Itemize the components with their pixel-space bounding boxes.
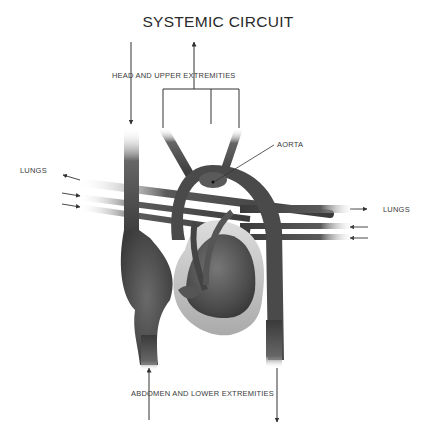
heart-diagram: [0, 0, 436, 446]
label-aorta: AORTA: [277, 140, 303, 149]
label-head-upper-extremities: HEAD AND UPPER EXTREMITIES: [112, 71, 236, 80]
arrow-right-icon: [62, 193, 80, 196]
label-abdomen-lower-extremities: ABDOMEN AND LOWER EXTREMITIES: [131, 389, 274, 398]
label-lungs-right: LUNGS: [383, 205, 410, 214]
heart: [173, 212, 264, 335]
head-flow-lines: [131, 42, 239, 128]
arrow-right-icon: [62, 204, 80, 207]
vena-cava: [121, 128, 173, 370]
label-lungs-left: LUNGS: [20, 166, 47, 175]
